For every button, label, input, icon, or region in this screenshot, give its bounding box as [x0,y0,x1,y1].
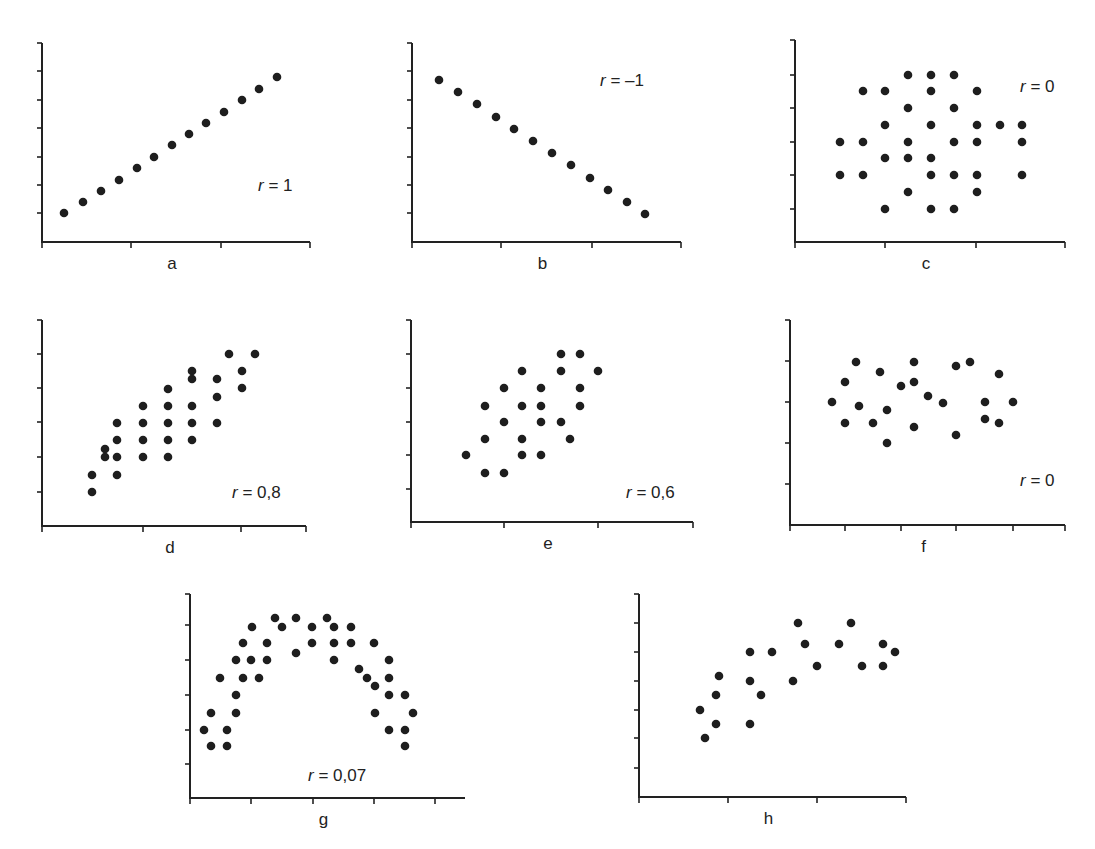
data-point [150,153,159,162]
data-point [537,451,546,460]
scatter-panel-g: gr = 0,07 [185,594,465,829]
data-point [385,656,394,665]
data-point [232,656,241,665]
data-point [623,198,632,207]
data-point [859,87,868,96]
data-point [492,113,501,122]
axes [42,43,310,242]
correlation-annotation: r = 0,07 [308,766,366,785]
data-point [500,384,509,393]
data-point [238,384,247,393]
data-point [79,198,88,207]
data-point [454,88,463,97]
data-point [557,367,566,376]
data-point [981,398,990,407]
data-point [594,367,603,376]
data-point [904,188,913,197]
data-point [789,677,798,686]
scatter-panel-e: er = 0,6 [406,320,693,553]
data-point [973,87,982,96]
data-point [223,742,232,751]
data-point [836,171,845,180]
data-point [847,619,856,628]
panel-label: a [167,254,177,273]
correlation-annotation: r = 0 [1020,77,1055,96]
data-point [518,367,527,376]
data-point [278,623,287,632]
data-point [462,451,471,460]
panel-label: d [165,538,174,557]
data-point [370,639,379,648]
data-point [1018,171,1027,180]
data-point [604,186,613,195]
correlation-annotation: r = 0,6 [626,483,675,502]
data-point [213,375,222,384]
data-point [557,350,566,359]
data-point [115,176,124,185]
data-point [576,402,585,411]
data-point [292,614,301,623]
data-point [385,726,394,735]
data-point [813,662,822,671]
data-point [113,471,122,480]
data-point [113,419,122,428]
axes [790,320,1065,525]
data-point [518,451,527,460]
data-point [238,96,247,105]
data-point [113,436,122,445]
data-point [168,141,177,150]
data-point [200,726,209,735]
data-point [239,674,248,683]
data-point [223,726,232,735]
data-point [518,435,527,444]
data-point [188,402,197,411]
data-point [910,358,919,367]
data-point [855,402,864,411]
data-point [188,367,197,376]
data-point [308,639,317,648]
data-point [981,415,990,424]
data-point [952,431,961,440]
correlation-annotation: r = 1 [258,176,293,195]
data-point [188,419,197,428]
data-point [207,709,216,718]
data-point [715,672,724,681]
data-point [1018,138,1027,147]
data-point [883,406,892,415]
data-point [323,614,332,623]
data-point [841,378,850,387]
data-point [927,154,936,163]
data-point [255,85,264,94]
data-point [330,656,339,665]
data-point [164,385,173,394]
data-point [529,137,538,146]
data-point [879,662,888,671]
data-point [500,469,509,478]
data-point [371,682,380,691]
data-point [586,174,595,183]
data-point [950,205,959,214]
data-point [401,726,410,735]
data-point [881,121,890,130]
data-point [101,445,110,454]
scatter-panel-c: cr = 0 [790,40,1065,273]
data-point [835,640,844,649]
data-point [757,691,766,700]
data-point [924,392,933,401]
data-point [548,149,557,158]
data-point [225,350,234,359]
data-point [995,419,1004,428]
data-point [858,662,867,671]
data-point [481,435,490,444]
data-point [537,402,546,411]
data-point [401,742,410,751]
data-point [481,469,490,478]
data-point [836,138,845,147]
data-point [537,418,546,427]
data-point [876,368,885,377]
data-point [841,419,850,428]
panel-label: e [543,534,552,553]
data-point [950,71,959,80]
data-point [139,453,148,462]
data-point [950,104,959,113]
